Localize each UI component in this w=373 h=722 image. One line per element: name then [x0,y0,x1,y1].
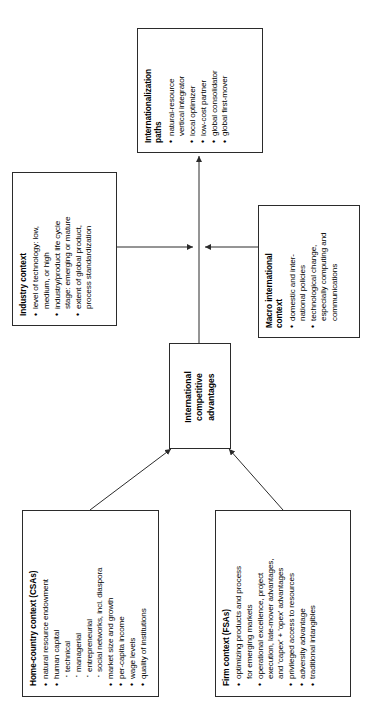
list-item: per-capita income [117,517,127,686]
list-item: wage levels [128,517,138,686]
internationalization-paths-bullets: natural-resource vertical integrator loc… [167,37,231,143]
internationalization-paths-title: Internationalization paths [143,37,164,143]
list-item: natural-resource vertical integrator [167,37,188,143]
macro-international-context-title: Macro international context [264,212,285,328]
node-internationalization-paths: Internationalization paths natural-resou… [137,28,263,153]
list-item: local optimizer [188,37,198,143]
node-macro-international-context: Macro international context domestic and… [258,205,360,338]
list-item: level of technology: low, medium, or hig… [31,179,52,316]
list-item: domestic and inter- national policies [288,212,309,328]
list-item: technological change, especially computi… [309,212,340,328]
list-item: global first-mover [220,37,230,143]
list-item: traditional intangibles [308,517,318,686]
industry-context-title: Industry context [18,179,28,316]
list-item: global consolidator [210,37,220,143]
macro-international-context-bullets: domestic and inter- national policies te… [288,212,340,328]
list-item: privileged access to resources [287,517,297,686]
home-country-context-bullets: natural resource endowment human capital [41,517,62,686]
list-item: operational excellence, project executio… [256,517,287,686]
list-item: managerial [74,517,84,679]
list-item: optimizing products and process for emer… [234,517,255,686]
arrow-firm-to-center [229,449,283,510]
node-firm-context: Firm context (FSAs) optimizing products … [215,510,351,697]
list-item: industry/product life cycle stage: emerg… [53,179,74,316]
home-country-context-sub-bullets: technical managerial entrepreneurial soc… [63,517,106,679]
list-item: technical [63,517,73,679]
list-item: market size and growth [106,517,116,686]
node-home-country-context: Home-country context (CSAs) natural reso… [22,510,159,697]
list-item: low-cost partner [199,37,209,143]
list-item: social networks, incl. diaspora [95,517,105,679]
list-item: extent of global product, process standa… [74,179,95,316]
industry-context-bullets: level of technology: low, medium, or hig… [31,179,94,316]
list-item: quality of institutions [139,517,149,686]
diagram-canvas: Internationalization paths natural-resou… [0,0,373,722]
list-item: adversity advantage [298,517,308,686]
node-international-competitive-advantages: International competitive advantages [169,343,231,449]
list-item: natural resource endowment [41,517,51,686]
list-item: entrepreneurial [85,517,95,679]
home-country-context-bullets-cont: market size and growth per-capita income… [106,517,149,686]
firm-context-bullets: optimizing products and process for emer… [234,517,318,686]
arrow-home-country-to-center [90,449,171,510]
list-item: human capital [52,517,62,686]
node-industry-context: Industry context level of technology: lo… [12,172,117,326]
center-node-label: International competitive advantages [183,371,218,423]
firm-context-title: Firm context (FSAs) [221,517,231,686]
home-country-context-title: Home-country context (CSAs) [28,517,38,686]
